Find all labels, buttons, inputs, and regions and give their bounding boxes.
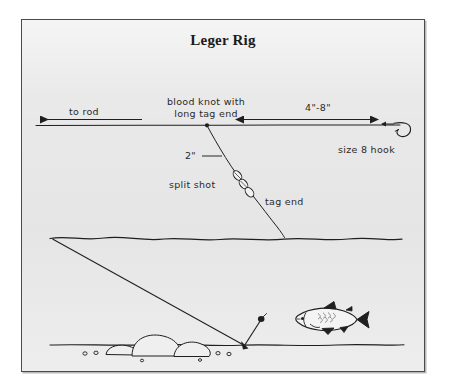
label-hook-distance: 4"-8" <box>258 102 378 114</box>
tag-end-line <box>207 126 278 228</box>
blood-knot <box>205 123 209 127</box>
descending-line <box>53 239 245 346</box>
label-size-8-hook: size 8 hook <box>338 144 395 156</box>
main-fishing-line <box>36 125 400 126</box>
tag-line-continuation <box>278 228 285 238</box>
page-root: Leger Rig <box>0 0 457 390</box>
label-to-rod: to rod <box>69 106 99 118</box>
leger-rig-diagram <box>22 20 425 372</box>
label-blood-knot-line2: long tag end <box>142 108 270 120</box>
bottom-baited-hook <box>241 314 267 350</box>
label-blood-knot-line1: blood knot with <box>142 96 270 108</box>
riverbed-line <box>50 344 404 345</box>
split-shot-weights <box>231 169 255 199</box>
size-8-hook <box>381 122 411 137</box>
label-split-shot: split shot <box>169 179 216 191</box>
label-tag-end: tag end <box>265 196 304 208</box>
fish <box>296 302 369 335</box>
label-two-inch: 2" <box>185 150 196 162</box>
water-surface-line <box>50 237 402 240</box>
riverbed-rocks <box>106 335 210 356</box>
leger-rig-figure-panel: Leger Rig <box>21 19 425 372</box>
